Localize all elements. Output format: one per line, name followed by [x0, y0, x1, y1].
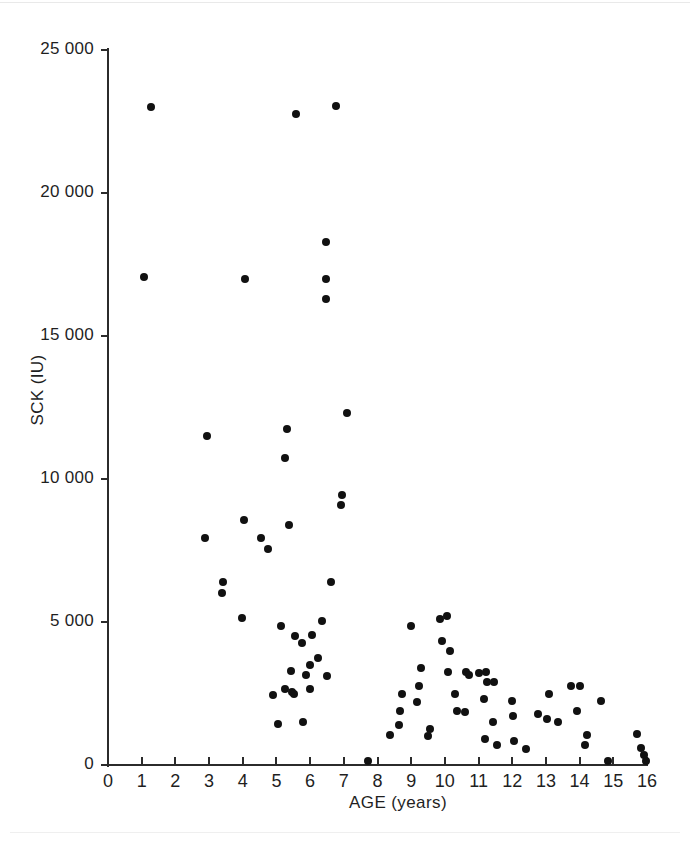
data-point [322, 295, 330, 303]
data-point [453, 707, 461, 715]
data-point [480, 695, 488, 703]
data-point [417, 664, 425, 672]
x-axis-title-text: AGE (years) [349, 793, 447, 812]
x-tick-label: 1 [127, 771, 157, 792]
y-tick-mark [101, 335, 108, 337]
data-point [218, 589, 226, 597]
data-point [241, 275, 249, 283]
x-tick-label: 0 [93, 771, 123, 792]
data-point [543, 715, 551, 723]
x-tick-label: 15 [598, 771, 628, 792]
data-point [424, 732, 432, 740]
data-point [299, 718, 307, 726]
data-point [481, 735, 489, 743]
data-point [291, 632, 299, 640]
x-axis-title: AGE (years) [0, 793, 690, 813]
data-point [633, 730, 641, 738]
y-tick-label: 25 000 [40, 39, 94, 59]
x-tick-label: 13 [531, 771, 561, 792]
data-point [327, 578, 335, 586]
data-point [269, 691, 277, 699]
data-point [493, 741, 501, 749]
data-point [281, 454, 289, 462]
data-point [343, 409, 351, 417]
data-point [306, 661, 314, 669]
y-tick-label: 15 000 [40, 325, 94, 345]
data-point [545, 690, 553, 698]
data-point [509, 712, 517, 720]
data-point [287, 667, 295, 675]
x-tick-label: 11 [464, 771, 494, 792]
data-point [508, 697, 516, 705]
data-point [465, 671, 473, 679]
data-point [573, 707, 581, 715]
data-point [386, 731, 394, 739]
data-point [415, 682, 423, 690]
data-point [396, 707, 404, 715]
x-tick-label: 5 [261, 771, 291, 792]
data-point [302, 671, 310, 679]
data-point [438, 637, 446, 645]
data-point [201, 534, 209, 542]
data-point [522, 745, 530, 753]
data-point [314, 654, 322, 662]
data-point [290, 690, 298, 698]
data-point [277, 622, 285, 630]
x-tick-label: 14 [565, 771, 595, 792]
data-point [642, 757, 650, 765]
data-point [298, 639, 306, 647]
data-point [510, 737, 518, 745]
data-point [140, 273, 148, 281]
data-point [604, 757, 612, 765]
x-tick-label: 4 [228, 771, 258, 792]
data-point [257, 534, 265, 542]
data-point [597, 697, 605, 705]
x-tick-label: 6 [295, 771, 325, 792]
y-tick-label: 5 000 [50, 611, 94, 631]
data-point [337, 501, 345, 509]
data-point [443, 612, 451, 620]
data-point [338, 491, 346, 499]
data-point [308, 631, 316, 639]
data-point [323, 672, 331, 680]
x-tick-label: 10 [430, 771, 460, 792]
data-point [364, 757, 372, 765]
data-point [583, 731, 591, 739]
data-point [322, 275, 330, 283]
data-point [203, 432, 211, 440]
data-point [451, 690, 459, 698]
data-point [413, 698, 421, 706]
x-tick-label: 8 [363, 771, 393, 792]
data-point [395, 721, 403, 729]
data-point [489, 718, 497, 726]
data-point [554, 718, 562, 726]
data-point [444, 668, 452, 676]
y-axis-title: SCK (IU) [28, 320, 48, 460]
data-point [318, 617, 326, 625]
data-point [567, 682, 575, 690]
x-tick-label: 7 [329, 771, 359, 792]
data-point [581, 741, 589, 749]
data-point [322, 238, 330, 246]
x-tick-label: 16 [632, 771, 662, 792]
data-point [283, 425, 291, 433]
data-point [398, 690, 406, 698]
data-point [147, 103, 155, 111]
data-point [285, 521, 293, 529]
data-point [490, 678, 498, 686]
data-point [576, 682, 584, 690]
y-tick-mark [101, 192, 108, 194]
y-tick-mark [101, 621, 108, 623]
data-point [461, 708, 469, 716]
data-point [238, 614, 246, 622]
data-point [446, 647, 454, 655]
plot-area [108, 50, 647, 765]
data-point [240, 516, 248, 524]
x-tick-label: 12 [497, 771, 527, 792]
scatter-chart-figure: 05 00010 00015 00020 00025 000 012345678… [0, 0, 690, 847]
y-tick-mark [101, 49, 108, 51]
x-tick-label: 9 [396, 771, 426, 792]
y-tick-mark [101, 478, 108, 480]
data-point [264, 545, 272, 553]
data-point [534, 710, 542, 718]
